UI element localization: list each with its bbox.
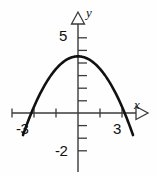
x-tick-label-3: 3 <box>113 121 121 136</box>
y-tick-label-negative-2: -2 <box>55 143 67 158</box>
plot-canvas <box>0 0 159 176</box>
y-axis-arrow-icon <box>72 12 85 24</box>
x-tick-label-negative-3: -3 <box>16 121 28 136</box>
x-axis-label: x <box>134 98 140 111</box>
y-axis-ticks <box>78 38 87 151</box>
y-tick-label-5: 5 <box>59 28 67 43</box>
y-axis-label: y <box>86 6 92 19</box>
parabola-figure: x y 5 -2 -3 3 <box>0 0 159 176</box>
